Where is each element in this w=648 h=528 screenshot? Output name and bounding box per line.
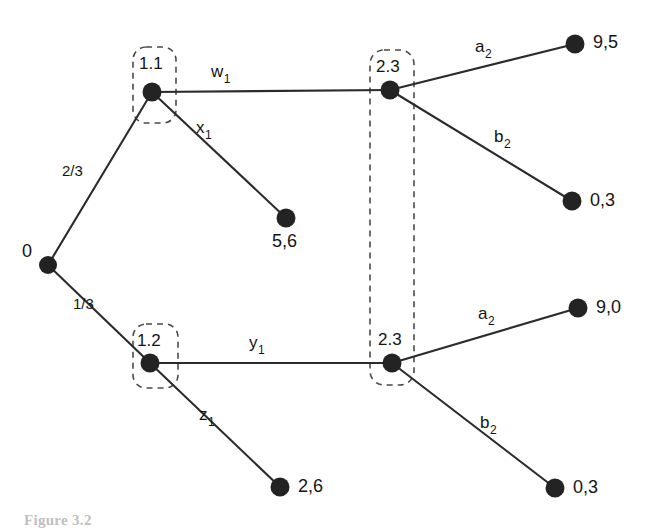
edge-player1-upper-w1	[152, 90, 390, 92]
node-label-root: 0	[22, 242, 32, 260]
action-label-upper-a2: a2	[475, 38, 491, 58]
action-base-lower-a2: a	[478, 304, 487, 323]
node-label-player2-lower: 2.3	[378, 331, 402, 348]
action-base-upper-b2: b	[494, 127, 503, 146]
action-sub-y1: 1	[258, 343, 265, 357]
action-base-lower-b2: b	[480, 413, 489, 432]
node-player1-lower	[141, 354, 160, 373]
terminal-node-upper-b2	[563, 192, 582, 211]
node-player2-lower	[383, 354, 402, 373]
action-sub-z1: 1	[208, 415, 215, 429]
edge-root-to-player1-lower	[48, 265, 150, 363]
node-root	[39, 256, 57, 274]
action-label-lower-a2: a2	[478, 305, 494, 325]
terminal-node-z1	[271, 478, 290, 497]
action-label-z1: z1	[199, 406, 214, 426]
action-sub-lower-b2: 2	[490, 423, 497, 437]
action-sub-lower-a2: 2	[488, 314, 495, 328]
edge-player1-upper-x1	[152, 92, 286, 218]
probability-label-lower: 1/3	[73, 296, 94, 311]
node-player1-upper	[143, 83, 162, 102]
terminal-node-upper-a2	[566, 35, 585, 54]
payoff-label-upper-a2-terminal: 9,5	[593, 33, 618, 51]
action-base-z1: z	[199, 405, 208, 424]
figure-caption: Figure 3.2	[24, 512, 92, 528]
edge-player2-lower-b2	[392, 363, 555, 488]
payoff-label-lower-b2-terminal: 0,3	[573, 478, 598, 496]
action-base-upper-a2: a	[475, 37, 484, 56]
terminal-node-x1	[277, 209, 296, 228]
action-label-lower-b2: b2	[480, 414, 496, 434]
action-label-x1: x1	[196, 119, 211, 139]
tree-canvas	[0, 0, 648, 528]
payoff-label-z1-terminal: 2,6	[298, 477, 323, 495]
action-base-w1: w	[211, 62, 223, 81]
edge-player2-upper-b2	[390, 90, 572, 201]
node-label-player1-lower: 1.2	[137, 332, 161, 349]
action-base-y1: y	[249, 333, 258, 352]
node-player2-upper	[381, 81, 400, 100]
action-label-y1: y1	[249, 334, 264, 354]
action-sub-upper-a2: 2	[485, 47, 492, 61]
action-sub-w1: 1	[224, 72, 231, 86]
payoff-label-lower-a2-terminal: 9,0	[596, 298, 621, 316]
payoff-label-upper-b2-terminal: 0,3	[590, 191, 615, 209]
terminal-node-lower-a2	[569, 299, 588, 318]
node-label-player1-upper: 1.1	[139, 55, 163, 72]
node-label-player2-upper: 2.3	[376, 58, 400, 75]
terminal-node-lower-b2	[546, 479, 565, 498]
action-sub-upper-b2: 2	[504, 137, 511, 151]
edge-player1-lower-z1	[150, 363, 280, 487]
game-tree-figure: 0 1.1 1.2 2.3 2.3 2/3 1/3 w1 x1 y1 z1 a2…	[0, 0, 648, 528]
probability-label-upper: 2/3	[62, 163, 83, 178]
payoff-label-x1-terminal: 5,6	[272, 232, 297, 250]
action-sub-x1: 1	[205, 128, 212, 142]
action-label-upper-b2: b2	[494, 128, 510, 148]
action-label-w1: w1	[211, 63, 230, 83]
action-base-x1: x	[196, 118, 205, 137]
